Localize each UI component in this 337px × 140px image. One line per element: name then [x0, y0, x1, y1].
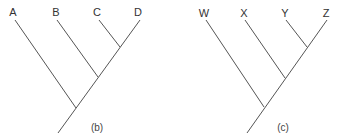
branch-line [99, 20, 120, 47]
branch-line [206, 20, 264, 107]
branch-line [286, 20, 307, 47]
branch-line [57, 20, 98, 77]
taxon-label: A [9, 6, 17, 18]
taxon-label: B [52, 6, 59, 18]
trunk-line [247, 20, 327, 133]
taxon-label: Y [281, 7, 289, 19]
cladogram-figure: ABCD(b) WXYZ(c) [0, 0, 337, 140]
cladogram-b: ABCD(b) [9, 6, 142, 133]
taxon-label: X [240, 7, 248, 19]
branch-line [245, 20, 285, 78]
taxon-label: Z [323, 7, 330, 19]
taxon-label: W [199, 7, 210, 19]
trunk-line [58, 20, 140, 133]
panel-caption: (c) [277, 122, 289, 133]
taxon-label: C [93, 6, 101, 18]
panel-caption: (b) [91, 122, 103, 133]
taxon-label: D [134, 6, 142, 18]
cladogram-c: WXYZ(c) [199, 7, 330, 133]
